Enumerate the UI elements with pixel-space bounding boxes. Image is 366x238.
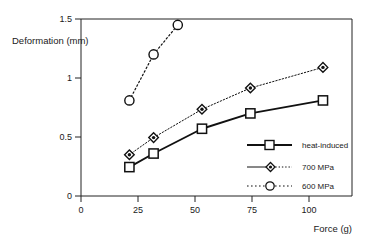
x-tick-label-75: 75: [247, 205, 257, 215]
data-point-marker-center: [128, 153, 131, 156]
x-tick-label-50: 50: [190, 205, 200, 215]
x-tick-label-0: 0: [78, 205, 83, 215]
data-point-marker-center: [321, 66, 324, 69]
data-point-marker: [125, 96, 134, 105]
data-point-marker: [149, 149, 158, 158]
legend-label-600-mpa: 600 MPa: [302, 182, 335, 191]
data-point-marker: [173, 20, 182, 29]
x-tick-label-100: 100: [301, 205, 316, 215]
y-tick-label-1: 1: [67, 73, 72, 83]
data-point-marker: [318, 96, 327, 105]
y-tick-label-0: 0: [67, 191, 72, 201]
circle-marker-icon: [266, 182, 274, 190]
square-marker-icon: [265, 141, 274, 150]
legend-label-700-mpa: 700 MPa: [302, 163, 335, 172]
data-point-marker: [125, 162, 134, 171]
data-point-marker: [246, 109, 255, 118]
data-point-marker-center: [249, 86, 252, 89]
y-axis-label: Deformation (mm): [12, 35, 89, 46]
legend-label-heat-induced: heat-induced: [302, 141, 348, 150]
x-axis-label: Force (g): [313, 223, 352, 234]
data-point-marker-center: [152, 136, 155, 139]
chart-canvas: 1.5 1 0.5 0 0 25 50 75 100 Deformation (…: [0, 0, 366, 238]
data-point-marker-center: [200, 108, 203, 111]
deformation-vs-force-chart: 1.5 1 0.5 0 0 25 50 75 100 Deformation (…: [0, 0, 366, 238]
data-point-marker: [149, 50, 158, 59]
x-tick-label-25: 25: [133, 205, 143, 215]
y-tick-label-0.5: 0.5: [59, 132, 72, 142]
data-point-marker: [197, 124, 206, 133]
y-tick-label-1.5: 1.5: [59, 14, 72, 24]
